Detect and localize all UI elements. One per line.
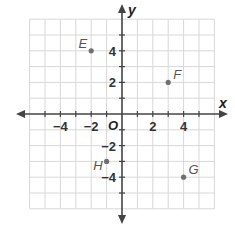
y-axis-label: y bbox=[127, 2, 137, 18]
x-axis-right-arrow-icon bbox=[219, 110, 228, 118]
x-tick-label: −2 bbox=[84, 119, 99, 134]
point-marker bbox=[104, 159, 109, 164]
coordinate-plane: x y O −4−224 42−2−4 EFGH bbox=[0, 0, 235, 233]
data-points: EFGH bbox=[79, 36, 199, 180]
y-tick-label: −2 bbox=[101, 139, 116, 154]
y-axis-down-arrow-icon bbox=[118, 215, 126, 224]
x-axis-label: x bbox=[218, 95, 228, 111]
origin-label: O bbox=[108, 118, 118, 133]
axes bbox=[16, 4, 228, 224]
y-axis-up-arrow-icon bbox=[118, 4, 126, 13]
x-tick-label: 2 bbox=[149, 119, 156, 134]
point-label: F bbox=[173, 67, 182, 82]
point-marker bbox=[181, 175, 186, 180]
point-label: G bbox=[189, 162, 199, 177]
point-marker bbox=[166, 80, 171, 85]
x-axis-left-arrow-icon bbox=[16, 110, 25, 118]
y-tick-label: −4 bbox=[101, 170, 117, 185]
x-tick-label: 4 bbox=[180, 119, 188, 134]
y-tick-label: 2 bbox=[109, 75, 116, 90]
point-marker bbox=[89, 48, 94, 53]
point-label: H bbox=[93, 158, 103, 173]
x-tick-label: −4 bbox=[53, 119, 69, 134]
y-tick-label: 4 bbox=[109, 44, 117, 59]
point-label: E bbox=[79, 36, 88, 51]
